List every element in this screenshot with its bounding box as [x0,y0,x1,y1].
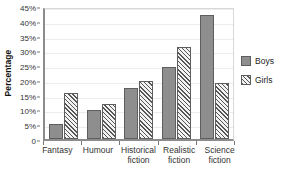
y-axis-tick-label: 35% [20,33,36,42]
legend-label: Girls [255,75,272,85]
x-axis-category-labels: FantasyHumourHistoricalfictionRealisticf… [37,145,240,165]
y-axis-tick-label: 30% [20,48,36,57]
bar-boys [87,110,101,139]
y-axis-tick-mark [37,96,40,97]
x-axis-label-science-fiction: Sciencefiction [200,145,240,165]
x-axis-label-line: Science [200,145,240,155]
y-axis-tick-label: 25% [20,63,36,72]
y-axis-tick-label: 10% [20,107,36,116]
y-axis-tick-mark [37,22,40,23]
legend-label: Boys [255,56,274,66]
y-axis-tick-labels: 05%10%15%20%25%30%35%40%45% [14,8,40,141]
x-axis-label-line: fiction [118,155,158,165]
bar-group [124,9,153,139]
y-axis-tick-mark [37,67,40,68]
bar-girls [177,47,191,139]
legend-swatch-boys-icon [241,56,251,66]
plot-area [43,8,234,141]
y-axis-tick-mark [37,81,40,82]
bar-group [162,9,191,139]
x-axis-label-line: Historical [118,145,158,155]
legend-item-boys[interactable]: Boys [241,56,286,66]
bar-boys [124,88,138,139]
legend-swatch-girls-icon [241,75,251,85]
y-axis-tick-label: 20% [20,77,36,86]
y-axis-tick-label: 45% [20,4,36,13]
y-axis-tick-label: 15% [20,92,36,101]
x-axis-label-realistic-fiction: Realisticfiction [159,145,199,165]
x-axis-label-line: fiction [200,155,240,165]
y-axis-title-text: Percentage [3,49,13,96]
bar-girls [139,81,153,139]
bar-boys [162,67,176,139]
x-axis-label-line: Realistic [159,145,199,155]
chart-legend: BoysGirls [241,56,286,94]
y-axis-tick-mark [37,111,40,112]
bars-layer [45,9,233,139]
y-axis-tick-label: 40% [20,18,36,27]
bar-chart: Percentage 05%10%15%20%25%30%35%40%45% F… [0,0,286,171]
bar-girls [102,104,116,139]
x-axis-label-humour: Humour [78,145,118,165]
y-axis-tick-mark [37,126,40,127]
x-axis-label-line: Humour [78,145,118,155]
y-axis-tick-label: 0 [32,137,36,146]
y-axis-tick-mark [37,141,40,142]
legend-item-girls[interactable]: Girls [241,75,286,85]
bar-boys [200,15,214,139]
bar-group [200,9,229,139]
y-axis-tick-mark [37,8,40,9]
x-axis-label-line: fiction [159,155,199,165]
x-axis-label-historical-fiction: Historicalfiction [118,145,158,165]
y-axis-tick-mark [37,52,40,53]
bar-girls [215,83,229,139]
x-axis-label-fantasy: Fantasy [37,145,77,165]
bar-girls [64,93,78,139]
bar-boys [49,124,63,139]
y-axis-tick-label: 5% [24,122,36,131]
y-axis-tick-mark [37,37,40,38]
x-axis-label-line: Fantasy [37,145,77,155]
bar-group [87,9,116,139]
bar-group [49,9,78,139]
